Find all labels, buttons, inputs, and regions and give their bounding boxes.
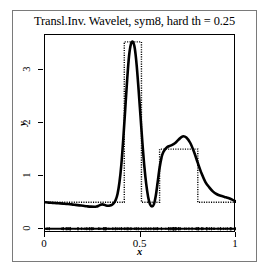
- y-tick-mark: [38, 69, 43, 70]
- y-tick-label: 3: [22, 62, 32, 76]
- plot-title: Transl.Inv. Wavelet, sym8, hard th = 0.2…: [12, 14, 257, 28]
- figure-container: Transl.Inv. Wavelet, sym8, hard th = 0.2…: [0, 0, 270, 275]
- plot-panel: [44, 34, 235, 232]
- series-layer: [45, 42, 236, 231]
- y-tick-label: 0: [22, 221, 32, 235]
- y-tick-label: 1: [22, 168, 32, 182]
- y-tick-mark: [38, 228, 43, 229]
- residual-rug: [45, 227, 236, 231]
- y-tick-mark: [38, 122, 43, 123]
- y-tick-mark: [38, 175, 43, 176]
- wavelet-estimate-curve: [45, 42, 236, 207]
- y-axis-label: y: [17, 121, 28, 126]
- plot-svg: [45, 35, 236, 233]
- x-axis-label: x: [44, 246, 235, 257]
